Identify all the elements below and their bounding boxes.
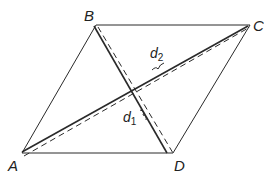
- diagonal-label-d1: d1: [123, 110, 136, 127]
- diagonal-label-d2: d2: [150, 46, 163, 63]
- vertex-label-d: D: [174, 158, 185, 173]
- diagram-graphic: [0, 0, 264, 178]
- rhombus-diagram: B C A D d2 d1: [0, 0, 264, 178]
- vertex-label-b: B: [84, 8, 94, 23]
- vertex-label-c: C: [253, 18, 264, 33]
- brace-d2: [152, 63, 164, 70]
- diagonal-d2-solid: [22, 26, 248, 152]
- edge-ab: [22, 25, 96, 153]
- vertex-label-a: A: [8, 158, 18, 173]
- edge-cd: [173, 25, 250, 153]
